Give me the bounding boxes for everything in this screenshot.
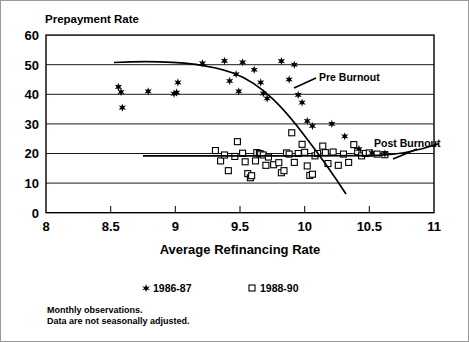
- data-point: [341, 132, 348, 140]
- y-tick-30: 30: [25, 117, 39, 132]
- footnote-line-2: Data are not seasonally adjusted.: [47, 316, 190, 326]
- data-point: [221, 57, 228, 65]
- legend-marker-square: [249, 285, 255, 291]
- data-point: [351, 142, 357, 148]
- data-point: [263, 162, 269, 168]
- data-point: [119, 103, 126, 111]
- x-axis-tick-labels: 8 8.5 9 9.5 10 10.5 11: [42, 219, 440, 234]
- data-point: [278, 57, 285, 65]
- data-point: [309, 171, 315, 177]
- data-point: [257, 78, 264, 86]
- data-point: [298, 98, 305, 106]
- data-point: [309, 122, 316, 130]
- y-tick-50: 50: [25, 58, 39, 73]
- data-point: [234, 139, 240, 145]
- pre-burnout-leader: [294, 78, 316, 88]
- data-point: [249, 173, 255, 179]
- x-tick-9.5: 9.5: [231, 219, 249, 234]
- x-tick-8: 8: [42, 219, 49, 234]
- data-point: [239, 58, 246, 66]
- x-tick-9: 9: [172, 219, 179, 234]
- data-point: [320, 143, 326, 149]
- legend: 1986-87 1988-90: [142, 282, 298, 294]
- data-point: [295, 91, 302, 99]
- data-point: [253, 158, 259, 164]
- post-burnout-label: Post Burnout: [374, 137, 441, 149]
- data-point: [265, 154, 271, 160]
- legend-label-1988-90: 1988-90: [260, 282, 299, 294]
- data-point: [322, 150, 328, 156]
- data-point: [218, 158, 224, 164]
- data-point: [289, 130, 295, 136]
- pre-burnout-label: Pre Burnout: [319, 71, 380, 83]
- y-axis-title: Prepayment Rate: [45, 13, 139, 25]
- chart-svg: Prepayment Rate 60 50 40 30 20 10 0: [1, 1, 468, 341]
- data-point: [226, 77, 233, 85]
- y-tick-40: 40: [25, 87, 39, 102]
- y-tick-60: 60: [25, 28, 39, 43]
- y-tick-20: 20: [25, 146, 39, 161]
- data-point: [242, 159, 248, 165]
- data-point: [330, 149, 336, 155]
- x-tick-10: 10: [297, 219, 311, 234]
- x-tick-11: 11: [427, 219, 441, 234]
- data-point: [346, 159, 352, 165]
- data-point: [302, 149, 308, 155]
- data-point: [251, 66, 258, 74]
- data-point: [225, 168, 231, 174]
- data-point: [276, 160, 282, 166]
- x-tick-8.5: 8.5: [102, 219, 120, 234]
- data-point: [335, 162, 341, 168]
- data-point: [281, 168, 287, 174]
- legend-marker-star: [142, 284, 150, 292]
- data-point: [221, 152, 227, 158]
- x-axis-ticks: [111, 206, 370, 213]
- data-point: [212, 148, 218, 154]
- y-axis-ticks: 60 50 40 30 20 10 0: [25, 28, 39, 221]
- footnote-line-1: Monthly observations.: [47, 305, 143, 315]
- chart-figure: Prepayment Rate 60 50 40 30 20 10 0: [0, 0, 469, 342]
- data-point: [174, 78, 181, 86]
- y-tick-10: 10: [25, 176, 39, 191]
- legend-label-1986-87: 1986-87: [153, 282, 192, 294]
- x-tick-10.5: 10.5: [357, 219, 382, 234]
- data-point: [291, 159, 297, 165]
- x-axis-title: Average Refinancing Rate: [160, 242, 321, 257]
- data-point: [286, 75, 293, 83]
- data-point: [304, 163, 310, 169]
- data-point: [299, 141, 305, 147]
- y-tick-0: 0: [32, 206, 39, 221]
